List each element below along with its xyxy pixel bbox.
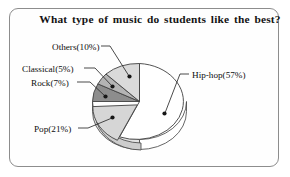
leader-dot-classical — [110, 84, 114, 88]
leader-dot-others — [127, 74, 131, 78]
pie-chart — [0, 0, 290, 177]
slice-label-pop: Pop(21%) — [34, 124, 71, 134]
leader-dot-hiphop — [162, 111, 166, 115]
leader-dot-rock — [103, 94, 107, 98]
slice-label-others: Others(10%) — [52, 42, 99, 52]
leader-dot-pop — [110, 115, 114, 119]
slice-label-classical: Classical(5%) — [22, 64, 74, 74]
slice-label-hiphop: Hip-hop(57%) — [192, 70, 246, 80]
slice-label-rock: Rock(7%) — [31, 78, 69, 88]
